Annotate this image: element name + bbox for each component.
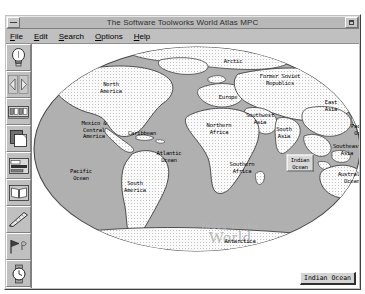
pages-icon xyxy=(9,129,28,148)
menu-item-edit[interactable]: Edit xyxy=(34,32,48,41)
flag-icon xyxy=(8,238,29,255)
book-icon xyxy=(9,185,29,201)
status-region-readout: Indian Ocean xyxy=(300,272,356,285)
map-label-north-america[interactable]: North America xyxy=(100,81,122,94)
tool-button-time[interactable] xyxy=(6,260,31,287)
menu-rest-edit: dit xyxy=(39,32,47,41)
map-label-northern-africa[interactable]: Northern Africa xyxy=(207,122,232,135)
tool-palette xyxy=(6,44,32,288)
map-label-antarctica[interactable]: Antarctica xyxy=(224,238,255,245)
map-label-south-america[interactable]: South America xyxy=(124,180,146,193)
menu-item-search[interactable]: Search xyxy=(59,32,84,41)
map-label-southeast-asia[interactable]: Southeast Asia xyxy=(333,143,359,156)
title-bar: The Software Toolworks World Atlas MPC xyxy=(6,16,359,29)
client-area: Index to the World Arctic North America … xyxy=(6,44,359,288)
app-root: The Software Toolworks World Atlas MPC F… xyxy=(0,0,365,294)
menu-rest-file: ile xyxy=(15,32,23,41)
tool-button-navigate-arrows[interactable] xyxy=(6,71,31,98)
system-menu-icon xyxy=(10,22,17,23)
filmstrip-icon xyxy=(8,104,29,120)
map-label-southwest-asia[interactable]: Southwest Asia xyxy=(246,112,274,125)
map-label-pacific-ocean-east[interactable]: Pacific Ocean xyxy=(351,123,359,136)
map-label-caribbean[interactable]: Caribbean xyxy=(128,130,156,137)
map-label-arctic[interactable]: Arctic xyxy=(224,58,243,65)
lightbulb-icon xyxy=(9,47,28,68)
map-label-mexico-central-america[interactable]: Mexico & Central America xyxy=(82,120,107,140)
map-label-southern-africa[interactable]: Southern Africa xyxy=(230,161,255,174)
system-menu-button[interactable] xyxy=(7,17,20,28)
map-label-former-soviet-republics[interactable]: Former Soviet Republics xyxy=(260,73,300,86)
ruler-icon xyxy=(8,211,29,228)
menu-rest-help: elp xyxy=(139,32,150,41)
tool-button-flags[interactable] xyxy=(6,233,31,260)
map-label-europe[interactable]: Europe xyxy=(219,94,238,101)
watch-icon xyxy=(10,264,28,284)
tool-button-encyclopedia[interactable] xyxy=(6,179,31,206)
arrows-icon xyxy=(8,75,29,94)
application-window: The Software Toolworks World Atlas MPC F… xyxy=(4,14,361,290)
map-label-atlantic-ocean[interactable]: Atlantic Ocean xyxy=(157,150,182,163)
menu-rest-options: ptions xyxy=(101,32,122,41)
menu-item-options[interactable]: Options xyxy=(95,32,123,41)
maximize-icon xyxy=(349,20,354,25)
tool-button-measure[interactable] xyxy=(6,206,31,233)
tool-button-statistics[interactable] xyxy=(6,152,31,179)
tool-button-navigate[interactable] xyxy=(6,287,31,288)
menu-rest-search: earch xyxy=(64,32,84,41)
menu-bar: File Edit Search Options Help xyxy=(6,30,359,44)
map-label-australia-oceania[interactable]: Australia & Oceania xyxy=(338,171,359,184)
window-title: The Software Toolworks World Atlas MPC xyxy=(20,18,345,27)
maximize-button[interactable] xyxy=(345,17,358,28)
map-label-south-asia[interactable]: South Asia xyxy=(276,126,292,139)
tool-button-pictures[interactable] xyxy=(6,98,31,125)
map-label-east-asia[interactable]: East Asia xyxy=(325,99,337,112)
map-label-pacific-ocean-west[interactable]: Pacific Ocean xyxy=(70,168,92,181)
tool-button-topics[interactable] xyxy=(6,44,31,71)
chart-icon xyxy=(9,158,29,174)
tool-button-documents[interactable] xyxy=(6,125,31,152)
world-map[interactable]: Index to the World Arctic North America … xyxy=(32,44,359,288)
menu-item-file[interactable]: File xyxy=(10,32,23,41)
menu-item-help[interactable]: Help xyxy=(134,32,150,41)
map-label-indian-ocean-selected[interactable]: Indian Ocean xyxy=(287,155,314,172)
